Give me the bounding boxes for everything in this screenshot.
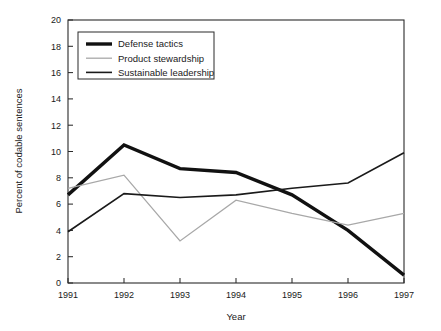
x-axis-tickmarks	[68, 278, 404, 283]
data-series-group	[68, 145, 404, 275]
x-axis-title: Year	[226, 311, 245, 322]
series-line-sustainable-leadership	[68, 153, 404, 232]
y-tick-label-10: 10	[51, 147, 61, 157]
y-tick-label-8: 8	[56, 173, 61, 183]
y-tick-label-20: 20	[51, 15, 61, 25]
y-axis-tick-labels: 02468101214161820	[51, 15, 61, 288]
legend-label-defense-tactics: Defense tactics	[118, 38, 183, 49]
x-tick-label-1992: 1992	[114, 290, 134, 300]
y-axis-tickmarks	[68, 20, 73, 283]
y-tick-label-14: 14	[51, 94, 61, 104]
line-chart-figure: 02468101214161820 1991199219931994199519…	[0, 0, 441, 331]
x-tick-label-1993: 1993	[170, 290, 190, 300]
legend: Defense tacticsProduct stewardshipSustai…	[78, 32, 214, 79]
x-tick-label-1994: 1994	[226, 290, 246, 300]
y-axis-title: Percent of codable sentences	[13, 88, 24, 213]
y-tick-label-2: 2	[56, 252, 61, 262]
legend-label-product-stewardship: Product stewardship	[118, 53, 204, 64]
y-tick-label-4: 4	[56, 226, 61, 236]
y-tick-label-16: 16	[51, 68, 61, 78]
x-tick-label-1991: 1991	[58, 290, 78, 300]
series-line-product-stewardship	[68, 175, 404, 241]
y-tick-label-0: 0	[56, 278, 61, 288]
legend-label-sustainable-leadership: Sustainable leadership	[118, 67, 214, 78]
x-axis-tick-labels: 1991199219931994199519961997	[58, 290, 414, 300]
series-line-defense-tactics	[68, 145, 404, 275]
x-tick-label-1996: 1996	[338, 290, 358, 300]
x-tick-label-1995: 1995	[282, 290, 302, 300]
x-tick-label-1997: 1997	[394, 290, 414, 300]
y-tick-label-6: 6	[56, 199, 61, 209]
y-tick-label-18: 18	[51, 42, 61, 52]
y-tick-label-12: 12	[51, 121, 61, 131]
